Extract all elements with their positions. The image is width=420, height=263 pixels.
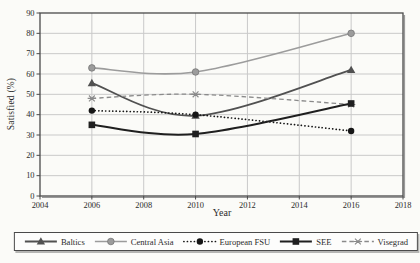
marker-see xyxy=(348,100,355,107)
marker-european-fsu xyxy=(89,107,95,113)
y-tick-label: 0 xyxy=(30,192,34,201)
x-tick-label: 2008 xyxy=(135,201,152,210)
marker-european-fsu xyxy=(196,238,202,244)
legend-label-european-fsu: European FSU xyxy=(219,237,270,247)
y-tick-label: 60 xyxy=(26,70,34,79)
x-tick-label: 2018 xyxy=(395,201,412,210)
legend-item-baltics: Baltics xyxy=(24,236,85,247)
legend-label-baltics: Baltics xyxy=(61,237,85,247)
y-tick-label: 10 xyxy=(26,171,34,180)
series-line-visegrad xyxy=(92,94,351,104)
series-line-baltics xyxy=(92,70,351,116)
x-tick-label: 2014 xyxy=(291,201,309,210)
line-chart-figure: 2004200620082010201220142016201801020304… xyxy=(0,0,420,263)
marker-central-asia xyxy=(107,238,114,245)
marker-central-asia xyxy=(348,30,355,37)
marker-central-asia xyxy=(192,69,199,76)
legend: BalticsCentral AsiaEuropean FSUSEEVisegr… xyxy=(14,232,418,251)
y-tick-label: 50 xyxy=(26,90,34,99)
x-tick-label: 2004 xyxy=(32,201,50,210)
legend-sample-see xyxy=(279,236,313,247)
marker-see xyxy=(192,131,199,138)
y-tick-label: 90 xyxy=(26,9,34,18)
legend-sample-european-fsu xyxy=(182,236,216,247)
marker-baltics xyxy=(88,79,96,86)
x-tick-label: 2010 xyxy=(187,201,204,210)
y-tick-label: 40 xyxy=(26,110,34,119)
x-tick-label: 2012 xyxy=(239,201,256,210)
marker-see xyxy=(89,122,96,129)
legend-item-see: SEE xyxy=(279,236,331,247)
y-tick-label: 70 xyxy=(26,49,34,58)
x-tick-label: 2006 xyxy=(83,201,100,210)
x-tick-label: 2016 xyxy=(343,201,360,210)
legend-sample-visegrad xyxy=(341,236,375,247)
legend-sample-central-asia xyxy=(94,236,128,247)
marker-european-fsu xyxy=(348,128,354,134)
legend-label-central-asia: Central Asia xyxy=(131,237,174,247)
y-axis-title: Satisfied (%) xyxy=(6,78,16,130)
marker-see xyxy=(293,238,300,245)
plot-area: 2004200620082010201220142016201801020304… xyxy=(0,0,420,228)
series-central-asia xyxy=(89,30,355,75)
series-see xyxy=(89,100,355,137)
legend-sample-baltics xyxy=(24,236,58,247)
legend-item-visegrad: Visegrad xyxy=(341,236,409,247)
marker-european-fsu xyxy=(192,111,198,117)
series-line-see xyxy=(92,104,351,135)
y-tick-label: 80 xyxy=(26,29,34,38)
legend-item-central-asia: Central Asia xyxy=(94,236,174,247)
y-tick-label: 20 xyxy=(26,151,34,160)
legend-item-european-fsu: European FSU xyxy=(182,236,270,247)
y-tick-label: 30 xyxy=(26,131,34,140)
marker-central-asia xyxy=(89,65,96,72)
marker-visegrad xyxy=(353,239,361,245)
series-line-european-fsu xyxy=(92,111,351,131)
marker-baltics xyxy=(347,66,355,73)
legend-label-visegrad: Visegrad xyxy=(378,237,409,247)
x-axis-title: Year xyxy=(213,207,231,218)
legend-label-see: SEE xyxy=(316,237,331,247)
